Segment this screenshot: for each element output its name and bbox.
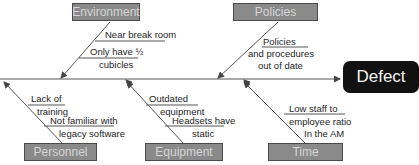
cause-equipment-1a: Outdated — [149, 93, 188, 105]
effect-label: Defect — [356, 67, 405, 87]
cause-personnel-2a: Not familiar with — [50, 115, 118, 127]
cause-environment-2b: cubicles — [99, 59, 133, 71]
cause-policies-1c: out of date — [258, 60, 303, 72]
cause-personnel-2b: legacy software — [59, 128, 125, 140]
cause-time-1a: Low staff to — [289, 103, 337, 115]
category-time-label: Time — [292, 145, 318, 159]
cause-time-1b: employee ratio — [289, 116, 351, 128]
category-equipment-label: Equipment — [155, 145, 212, 159]
cause-equipment-2b: static — [192, 128, 214, 140]
cause-time-1c: In the AM — [304, 128, 344, 140]
effect-defect: Defect — [343, 61, 419, 93]
category-equipment: Equipment — [145, 143, 223, 161]
cause-policies-1b: and procedures — [248, 48, 314, 60]
category-time: Time — [268, 143, 343, 161]
cause-environment-2a: Only have ½ — [90, 46, 143, 58]
category-environment: Environment — [72, 3, 140, 21]
cause-equipment-2a: Headsets have — [172, 115, 235, 127]
cause-personnel-1a: Lack of — [31, 93, 62, 105]
category-policies: Policies — [233, 3, 318, 21]
category-personnel-label: Personnel — [33, 145, 87, 159]
category-environment-label: Environment — [72, 5, 139, 19]
cause-environment-1: Near break room — [105, 29, 176, 41]
category-policies-label: Policies — [255, 5, 296, 19]
cause-policies-1a: Policies — [263, 36, 296, 48]
category-personnel: Personnel — [24, 143, 97, 161]
